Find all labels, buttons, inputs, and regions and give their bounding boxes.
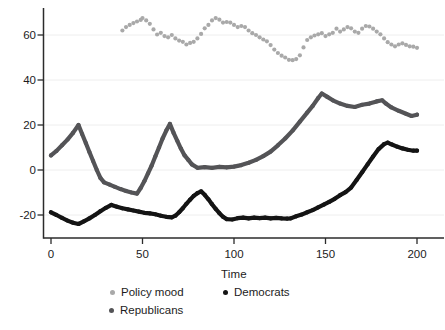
series-republicans	[49, 91, 419, 195]
y-tick-label-40: 40	[23, 74, 36, 86]
x-tick-label-200: 200	[407, 248, 426, 260]
series-policy-mood	[120, 16, 419, 62]
legend-label: Democrats	[234, 286, 290, 298]
legend-item-democrats: Democrats	[223, 286, 290, 298]
y-tick-label-0: 0	[30, 164, 36, 176]
legend-item-republicans: Republicans	[109, 304, 183, 316]
policy-mood-chart: 6040200-20050100150200 Time Policy moodD…	[0, 0, 445, 330]
legend-item-policy-mood: Policy mood	[110, 286, 184, 298]
x-tick-label-150: 150	[316, 248, 335, 260]
legend-marker-icon	[109, 308, 114, 313]
x-axis-title: Time	[51, 268, 417, 280]
legend-marker-icon	[223, 290, 228, 295]
y-tick-label-60: 60	[23, 29, 36, 41]
y-tick-label--20: -20	[19, 209, 36, 221]
x-tick-label-50: 50	[136, 248, 149, 260]
x-tick-label-0: 0	[48, 248, 54, 260]
legend-marker-icon	[110, 290, 115, 295]
plot-area: 6040200-20050100150200	[0, 0, 445, 330]
y-tick-label-20: 20	[23, 119, 36, 131]
legend-label: Policy mood	[121, 286, 184, 298]
x-tick-label-100: 100	[224, 248, 243, 260]
legend-label: Republicans	[120, 304, 183, 316]
